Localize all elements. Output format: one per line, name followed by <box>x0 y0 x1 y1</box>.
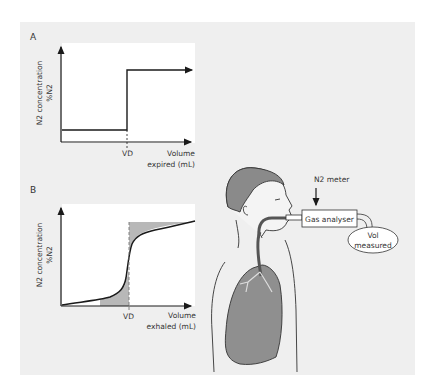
n2-meter-label: N2 meter <box>314 175 350 184</box>
panel-a-y-label-2: %N2 <box>45 84 54 102</box>
gas-analyser-label: Gas analyser <box>305 215 355 224</box>
panel-b-y-label-1: N2 concentration <box>35 222 44 287</box>
apparatus: N2 meter Gas analyser Vol measured <box>302 175 398 253</box>
panel-a-y-label-1: N2 concentration <box>35 60 44 125</box>
panel-a-label: A <box>30 32 37 42</box>
vol-label-1: Vol <box>367 231 378 240</box>
person-illustration <box>212 168 302 372</box>
vol-label-2: measured <box>354 241 392 250</box>
lungs <box>225 265 282 364</box>
panel-a-vd-label: VD <box>122 149 133 158</box>
panel-b-label: B <box>30 185 36 195</box>
panel-b-vd-label: VD <box>123 312 134 321</box>
panel-a-x-label-2: expired (mL) <box>147 160 195 169</box>
figure-svg: A N2 concentration %N2 VD Volume expired… <box>0 0 432 392</box>
panel-b-x-label-2: exhaled (mL) <box>147 322 197 331</box>
panel-b-x-label-1: Volume <box>168 311 196 320</box>
panel-b-y-label-2: %N2 <box>45 246 54 264</box>
panel-b-chart: N2 concentration %N2 VD Volume exhaled (… <box>35 204 196 331</box>
panel-a-x-label-1: Volume <box>167 149 195 158</box>
panel-a-chart: N2 concentration %N2 VD Volume expired (… <box>35 43 195 169</box>
